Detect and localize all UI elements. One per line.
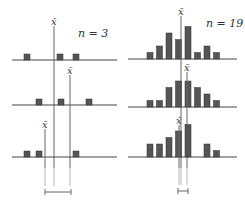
mean-symbol-label: x̄ [42,119,48,130]
sampling-distribution-diagram: x̄x̄x̄ x̄x̄x̄ n = 3 n = 19 [0,0,245,206]
histogram-bar [185,81,191,107]
histogram-bar [195,53,201,60]
data-square [36,99,42,105]
histogram-bar [185,125,191,158]
data-square [24,54,30,60]
data-square [57,54,63,60]
data-square [73,54,79,60]
histogram-bar [157,46,163,59]
histogram-bar [214,53,220,60]
left-panel-n3: x̄x̄x̄ [12,16,117,195]
histogram-bar [204,94,210,107]
histogram-bar [166,138,172,158]
data-square [36,151,42,157]
histogram-bar [147,144,153,157]
histogram-bar [214,101,220,108]
histogram-bar [147,53,153,60]
histogram-bar [176,81,182,107]
histogram-bar [214,151,220,158]
mean-symbol-label: x̄ [51,16,57,27]
sample-size-label-left: n = 3 [78,27,108,40]
data-square [58,99,64,105]
mean-symbol-label: x̄ [184,62,190,73]
mean-symbol-label: x̄ [176,115,182,126]
histogram-bar [147,101,153,108]
sample-size-label-right: n = 19 [206,17,243,30]
data-square [24,151,30,157]
histogram-bar [185,27,191,60]
histogram-bar [166,88,172,108]
histogram-bar [157,101,163,108]
histogram-bar [195,88,201,108]
mean-symbol-label: x̄ [67,65,73,76]
histogram-bar [157,144,163,157]
data-square [86,99,92,105]
histogram-bar [166,33,172,59]
histogram-bar [204,46,210,59]
mean-symbol-label: x̄ [178,6,184,17]
data-square [73,151,79,157]
histogram-bar [204,144,210,157]
right-panel-n19: x̄x̄x̄ [128,6,237,194]
